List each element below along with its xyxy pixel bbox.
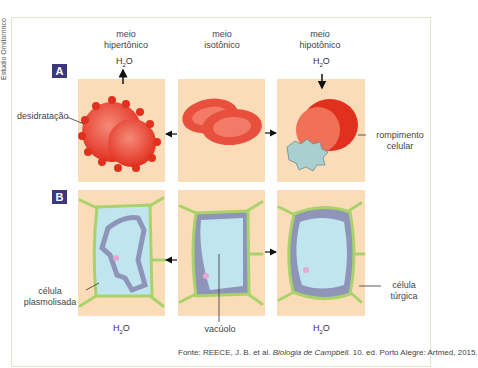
water-label-b-right: H2O bbox=[313, 323, 330, 335]
label-cell-rupture: rompimento celular bbox=[370, 130, 430, 152]
label-plasmolysed-cell: célula plasmolisada bbox=[20, 286, 80, 308]
plasmolysed-plant-cell-icon bbox=[80, 198, 165, 306]
source-citation: Fonte: REECE, J. B. et al. Biologia de C… bbox=[178, 348, 478, 357]
normal-red-blood-cell-icon bbox=[179, 94, 263, 147]
label-line: rompimento bbox=[370, 130, 430, 141]
label-turgid-cell: célula túrgica bbox=[384, 280, 424, 302]
label-vacuole: vacúolo bbox=[200, 324, 240, 335]
turgid-plant-cell-icon bbox=[279, 203, 364, 302]
label-dehydration: desidratação bbox=[17, 111, 69, 122]
lysed-red-blood-cell-icon bbox=[287, 99, 358, 171]
normal-plant-cell-icon bbox=[180, 202, 262, 304]
label-line: célula bbox=[384, 280, 424, 291]
source-suffix: 10. ed. Porto Alegre: Artmed, 2015. bbox=[351, 348, 478, 357]
label-line: túrgica bbox=[384, 291, 424, 302]
crenated-red-blood-cell-icon bbox=[78, 96, 161, 172]
water-label-b-left: H2O bbox=[113, 323, 130, 335]
label-line: plasmolisada bbox=[20, 297, 80, 308]
label-line: célula bbox=[20, 286, 80, 297]
source-title: Biologia de Campbell. bbox=[273, 348, 351, 357]
label-line: celular bbox=[370, 141, 430, 152]
source-prefix: Fonte: REECE, J. B. et al. bbox=[178, 348, 273, 357]
